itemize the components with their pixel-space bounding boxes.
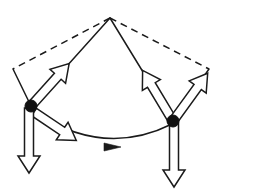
node-left-mass (25, 100, 37, 112)
node-right-mass (167, 115, 179, 127)
mechanics-diagram (0, 0, 263, 192)
dashed-line-left (13, 18, 110, 69)
trajectory-arrowhead-icon (104, 143, 121, 151)
velocity-left-arrow-icon (28, 103, 82, 149)
weight-right-arrow-icon (163, 123, 185, 187)
figure-canvas (0, 0, 263, 192)
